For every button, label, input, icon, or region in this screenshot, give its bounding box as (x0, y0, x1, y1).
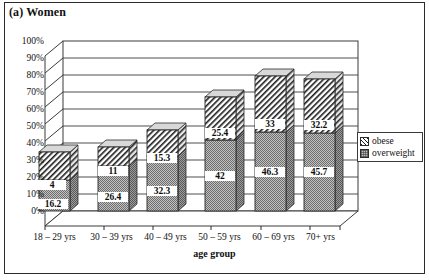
x-tick-label: 50 – 59 yrs (191, 232, 248, 242)
bar-value-overweight: 46.3 (255, 167, 285, 177)
x-tick-label: 40 – 49 yrs (137, 232, 194, 242)
legend-swatch-overweight-icon (360, 149, 369, 158)
bar-value-obese: 15.3 (147, 153, 177, 163)
x-tick-label: 18 – 29 yrs (26, 232, 83, 242)
y-tick-label: 90% (8, 53, 44, 63)
bar-value-overweight: 26.4 (98, 192, 128, 202)
legend-item-obese[interactable]: obese (360, 135, 420, 147)
y-tick-label: 40% (8, 138, 44, 148)
y-tick-label: 70% (8, 87, 44, 97)
bar-value-obese: 25.4 (205, 128, 235, 138)
y-tick-label: 100% (8, 36, 44, 46)
legend-label-obese: obese (372, 136, 394, 147)
bar-group-40-49 (147, 123, 186, 211)
legend-label-overweight: overweight (372, 148, 415, 159)
bar-value-obese: 11 (98, 166, 128, 176)
x-tick-label: 70+ yrs (298, 232, 343, 242)
figure-panel: (a) Women (0, 0, 429, 280)
bar-value-obese: 32.2 (304, 120, 334, 130)
bar-value-overweight: 45.7 (304, 167, 334, 177)
y-tick-label: 10% (8, 189, 44, 199)
bar-value-overweight: 16.2 (38, 199, 68, 209)
bar-value-overweight: 42 (205, 171, 235, 181)
y-tick-label: 60% (8, 104, 44, 114)
x-tick-label: 60 – 69 yrs (245, 232, 302, 242)
bar-group-70-plus (304, 72, 343, 211)
y-tick-label: 30% (8, 155, 44, 165)
bar-value-obese: 4 (38, 180, 66, 190)
bar-group-60-69 (255, 69, 294, 211)
bar-value-obese: 33 (255, 119, 285, 129)
y-tick-label: 80% (8, 70, 44, 80)
legend-swatch-obese-icon (360, 137, 369, 146)
x-tick-label: 30 – 39 yrs (83, 232, 140, 242)
x-axis-title: age group (0, 248, 429, 259)
legend-item-overweight[interactable]: overweight (360, 147, 420, 159)
bar-group-50-59 (205, 90, 244, 211)
y-tick-label: 50% (8, 121, 44, 131)
chart-legend: obese overweight (357, 132, 423, 162)
bar-value-overweight: 32.3 (147, 186, 177, 196)
